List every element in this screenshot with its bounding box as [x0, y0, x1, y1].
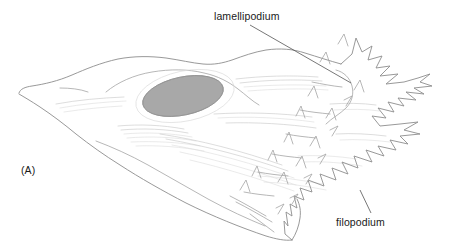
leader-line-lamellipodium [250, 25, 351, 83]
cell-line-drawing [0, 0, 455, 251]
spiky-leading-edge [230, 34, 432, 240]
leader-line-filopodium [360, 190, 371, 213]
figure-panel-a: lamellipodium filopodium (A) [0, 0, 455, 251]
panel-label: (A) [21, 164, 35, 176]
annotation-label-lamellipodium: lamellipodium [214, 10, 280, 22]
annotation-label-filopodium: filopodium [336, 216, 385, 228]
nucleus [131, 61, 239, 131]
